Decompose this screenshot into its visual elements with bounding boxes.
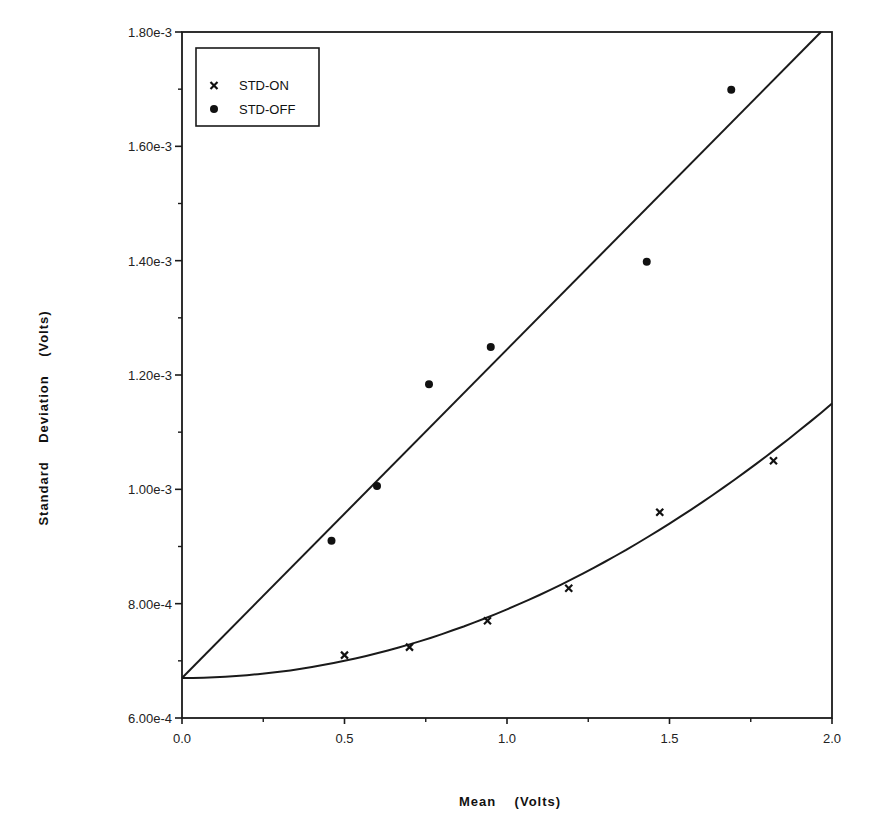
filled-circle-icon [210, 105, 218, 113]
fit-lines [182, 32, 832, 678]
x-tick-label: 0.0 [173, 731, 191, 746]
filled-circle-icon [328, 537, 336, 545]
y-tick-label: 1.80e-3 [128, 25, 172, 40]
filled-circle-icon [425, 380, 433, 388]
y-tick-label: 6.00e-4 [128, 711, 172, 726]
x-mark-icon [656, 509, 663, 516]
x-mark-icon [770, 457, 777, 464]
legend-label-std-on: STD-ON [239, 78, 289, 93]
plot-frame [182, 32, 832, 718]
filled-circle-icon [643, 258, 651, 266]
x-mark-icon [341, 652, 348, 659]
legend-label-std-off: STD-OFF [239, 102, 295, 117]
x-axis-title: Mean (Volts) [459, 794, 561, 809]
x-tick-label: 2.0 [823, 731, 841, 746]
y-tick-label: 1.00e-3 [128, 482, 172, 497]
fit-curve-std-on [182, 404, 832, 678]
y-tick-label: 8.00e-4 [128, 597, 172, 612]
x-tick-label: 1.0 [498, 731, 516, 746]
x-tick-label: 0.5 [335, 731, 353, 746]
filled-circle-icon [727, 86, 735, 94]
x-mark-icon [565, 585, 572, 592]
y-tick-label: 1.20e-3 [128, 368, 172, 383]
y-tick-label: 1.60e-3 [128, 139, 172, 154]
y-axis-ticks: 6.00e-48.00e-41.00e-31.20e-31.40e-31.60e… [128, 25, 182, 726]
plot-border [182, 32, 832, 718]
filled-circle-icon [487, 343, 495, 351]
y-axis-title: Standard Deviation (Volts) [36, 310, 51, 525]
filled-circle-icon [373, 482, 381, 490]
y-tick-label: 1.40e-3 [128, 254, 172, 269]
data-points [328, 86, 778, 659]
x-tick-label: 1.5 [660, 731, 678, 746]
legend: STD-ON STD-OFF [196, 48, 319, 126]
chart: 0.00.51.01.52.0 6.00e-48.00e-41.00e-31.2… [0, 0, 879, 825]
fit-line-std-off [182, 32, 821, 678]
x-axis-ticks: 0.00.51.01.52.0 [173, 718, 841, 746]
